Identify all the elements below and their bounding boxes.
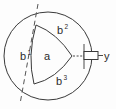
label-axis-y: y <box>104 50 110 62</box>
label-region-b3-superscript: 3 <box>64 74 68 81</box>
label-region-b1-superscript: 1 <box>28 49 32 56</box>
label-region-b2: b <box>57 24 63 36</box>
figure-container: a b 1 b 2 b 3 y <box>0 0 116 109</box>
label-region-b3: b <box>56 75 62 87</box>
label-region-b2-superscript: 2 <box>65 23 69 30</box>
label-region-b1: b <box>20 50 26 62</box>
axis-box-symbol <box>84 52 98 60</box>
diagram-canvas: a b 1 b 2 b 3 y <box>0 0 116 109</box>
label-region-a: a <box>44 50 51 62</box>
